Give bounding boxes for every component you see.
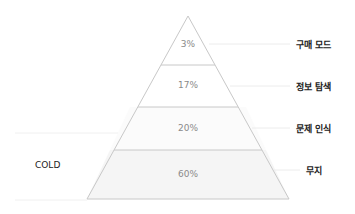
level-4-label: 무지 (306, 164, 322, 177)
level-1-value: 3% (158, 39, 218, 49)
level-2-label: 정보 탐색 (296, 80, 331, 93)
pyramid-graphic (0, 0, 355, 214)
level-3-label: 문제 인식 (296, 122, 331, 135)
level-3-value: 20% (158, 123, 218, 133)
level-4-value: 60% (158, 169, 218, 179)
level-1-label: 구매 모드 (296, 38, 331, 51)
cold-label: COLD (35, 160, 60, 170)
level-2-value: 17% (158, 80, 218, 90)
